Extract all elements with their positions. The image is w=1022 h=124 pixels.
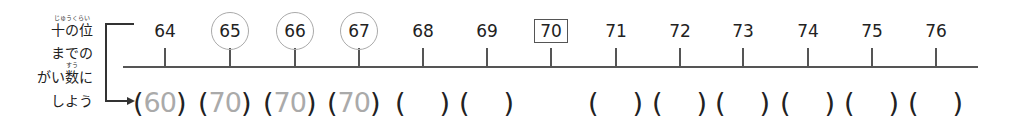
- close-paren: ): [440, 87, 451, 118]
- answer-slot-filled: (70): [327, 88, 380, 118]
- close-paren: ): [953, 87, 964, 118]
- close-paren: ): [760, 87, 771, 118]
- answer-value: 70: [274, 87, 306, 118]
- number-label: 74: [788, 19, 828, 43]
- tick-mark: [807, 48, 809, 67]
- instruction-line-2: までの: [51, 46, 93, 60]
- answer-slot-blank[interactable]: (): [652, 88, 707, 118]
- answer-slot-blank[interactable]: (): [908, 88, 963, 118]
- open-paren: (: [652, 87, 663, 118]
- close-paren: ): [370, 87, 381, 118]
- tick-mark: [229, 48, 231, 67]
- answer-value: 60: [144, 87, 176, 118]
- answer-slot-blank[interactable]: (): [715, 88, 770, 118]
- number-label: 76: [916, 19, 956, 43]
- number-label: 72: [660, 19, 700, 43]
- close-paren: ): [889, 87, 900, 118]
- tick-mark: [486, 48, 488, 67]
- open-paren: (: [133, 87, 144, 118]
- close-paren: ): [241, 87, 252, 118]
- ruby-reading-place: じゅうくらい: [54, 15, 90, 21]
- boxed-number-label: 70: [534, 19, 568, 43]
- bracket-vertical-line: [105, 23, 107, 101]
- answer-slot-filled: (60): [133, 88, 186, 118]
- open-paren: (: [844, 87, 855, 118]
- close-paren: ): [633, 87, 644, 118]
- tick-mark: [164, 48, 166, 67]
- answer-slot-filled: (70): [198, 88, 251, 118]
- close-paren: ): [176, 87, 187, 118]
- number-label: 64: [145, 19, 185, 43]
- instruction-line-3: がいすう数に: [37, 70, 93, 84]
- answer-slot-blank[interactable]: (): [780, 88, 835, 118]
- open-paren: (: [327, 87, 338, 118]
- bracket-top-line: [105, 23, 134, 25]
- bracket-arrow-shaft: [105, 100, 129, 102]
- tick-mark: [422, 48, 424, 67]
- circled-number-label: 65: [211, 12, 249, 50]
- answer-value: 70: [338, 87, 370, 118]
- open-paren: (: [780, 87, 791, 118]
- tick-mark: [615, 48, 617, 67]
- answer-value: 70: [209, 87, 241, 118]
- close-paren: ): [825, 87, 836, 118]
- answer-slot-blank[interactable]: (): [844, 88, 899, 118]
- number-label: 68: [403, 19, 443, 43]
- ruby-group-number: すう数: [65, 70, 79, 84]
- number-label: 75: [852, 19, 892, 43]
- open-paren: (: [395, 87, 406, 118]
- answer-slot-blank[interactable]: (): [395, 88, 450, 118]
- close-paren: ): [306, 87, 317, 118]
- circled-number-label: 67: [340, 12, 378, 50]
- tick-mark: [550, 48, 552, 67]
- answer-slot-blank[interactable]: (): [459, 88, 514, 118]
- open-paren: (: [908, 87, 919, 118]
- tick-mark: [294, 48, 296, 67]
- open-paren: (: [459, 87, 470, 118]
- number-label: 71: [596, 19, 636, 43]
- tick-mark: [935, 48, 937, 67]
- open-paren: (: [263, 87, 274, 118]
- ruby-group-place: じゅうくらい 十の位: [51, 23, 93, 37]
- number-label: 69: [467, 19, 507, 43]
- circled-number-label: 66: [276, 12, 314, 50]
- close-paren: ): [697, 87, 708, 118]
- tick-mark: [871, 48, 873, 67]
- ruby-reading-number: すう: [66, 62, 78, 68]
- instruction-line-1: じゅうくらい 十の位: [51, 23, 93, 37]
- open-paren: (: [715, 87, 726, 118]
- open-paren: (: [198, 87, 209, 118]
- tick-mark: [742, 48, 744, 67]
- instruction-line-4: しよう: [51, 94, 93, 108]
- answer-slot-filled: (70): [263, 88, 316, 118]
- answer-slot-blank[interactable]: (): [588, 88, 643, 118]
- tick-mark: [679, 48, 681, 67]
- close-paren: ): [504, 87, 515, 118]
- open-paren: (: [588, 87, 599, 118]
- tick-mark: [358, 48, 360, 67]
- number-label: 73: [723, 19, 763, 43]
